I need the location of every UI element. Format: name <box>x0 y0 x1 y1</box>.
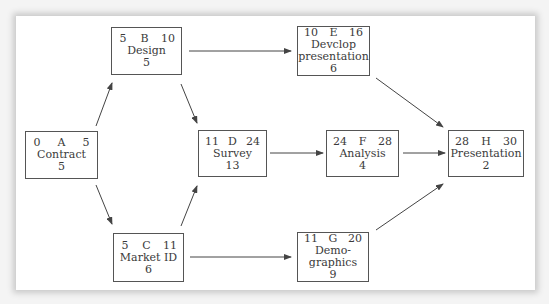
activity-name: Survey <box>213 148 252 160</box>
node-e-develop-presentation: 10E16 Devclop presentation 6 <box>297 26 370 76</box>
activity-duration: 5 <box>58 161 65 173</box>
node-f-analysis: 24F28 Analysis 4 <box>326 130 399 177</box>
activity-id: D <box>228 136 238 148</box>
edge-c-d <box>181 186 197 226</box>
node-g-demographics: 11G20 Demo- graphics 9 <box>297 232 369 282</box>
activity-id: H <box>481 136 491 148</box>
activity-duration: 13 <box>226 160 240 172</box>
early-start: 24 <box>333 136 347 148</box>
edge-a-b <box>96 83 112 126</box>
early-start: 11 <box>205 136 219 148</box>
edge-b-d <box>181 84 197 123</box>
activity-duration: 9 <box>330 269 337 281</box>
activity-duration: 2 <box>483 160 490 172</box>
edge-e-h <box>376 78 443 127</box>
early-start: 5 <box>120 240 130 252</box>
activity-id: C <box>142 240 152 252</box>
early-finish: 28 <box>378 136 392 148</box>
edge-g-h <box>376 184 443 230</box>
activity-name: Analysis <box>339 148 385 160</box>
node-c-market-id: 5C11 Market ID 6 <box>113 233 184 282</box>
early-start: 28 <box>455 136 469 148</box>
edge-a-c <box>96 185 112 224</box>
activity-duration: 6 <box>330 63 337 75</box>
activity-duration: 6 <box>145 264 152 276</box>
activity-name: Market ID <box>120 252 177 264</box>
activity-id: F <box>358 136 368 148</box>
node-h-presentation: 28H30 Presentation 2 <box>448 130 524 177</box>
early-finish: 30 <box>503 136 517 148</box>
activity-duration: 4 <box>359 160 366 172</box>
node-b-design: 5B10 Design 5 <box>111 27 182 75</box>
node-a-contract: 0A5 Contract 5 <box>25 131 98 179</box>
activity-duration: 5 <box>143 57 150 69</box>
early-finish: 24 <box>246 136 260 148</box>
activity-name: Presentation <box>450 148 521 160</box>
early-finish: 11 <box>163 240 177 252</box>
node-d-survey: 11D24 Survey 13 <box>198 130 267 177</box>
